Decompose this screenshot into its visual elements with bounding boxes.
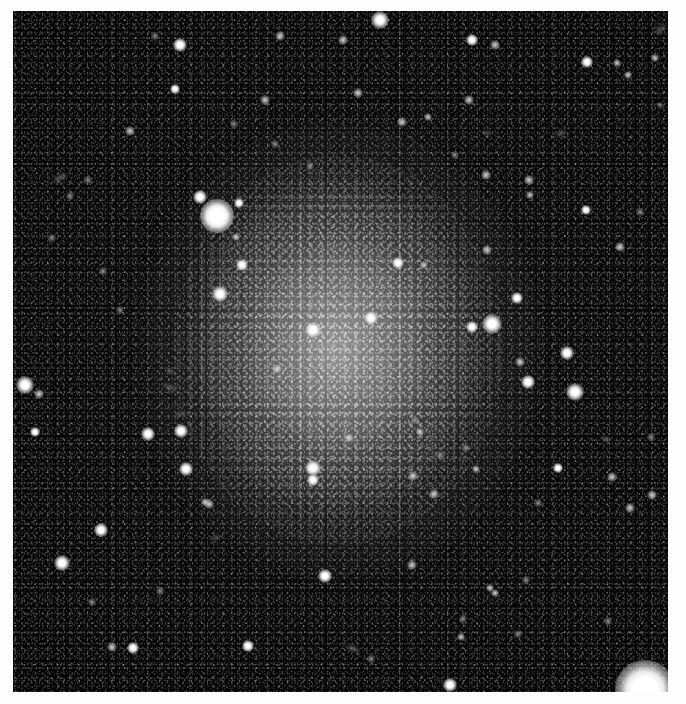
astronomical-plate <box>13 11 668 692</box>
page-root <box>0 0 686 704</box>
galaxy-resolved-stars-speckle <box>173 155 503 545</box>
